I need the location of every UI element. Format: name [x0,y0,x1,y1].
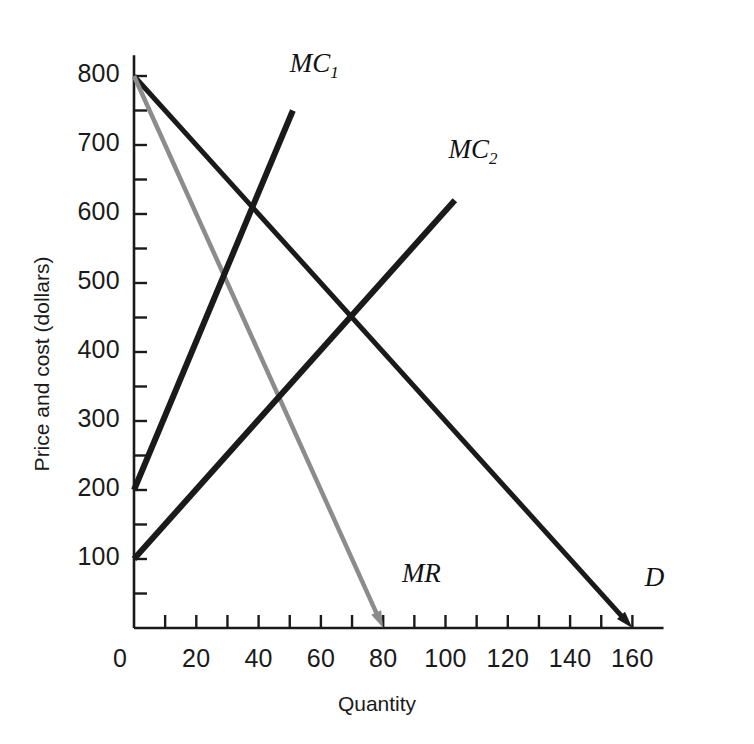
y-tick-label: 600 [77,197,120,226]
curve-label-text: MC [449,134,490,164]
economics-chart-figure: 100200300400500600700800 020406080100120… [0,0,754,744]
axis-lines [134,55,664,628]
curve-label-text: D [645,562,665,592]
y-tick-label: 700 [77,128,120,157]
chart-plot-area [0,0,754,744]
y-tick-label: 200 [77,473,120,502]
y-tick-label: 500 [77,266,120,295]
curve-label-subscript: 2 [489,149,498,168]
x-axis-title: Quantity [0,692,754,716]
y-tick-label: 800 [77,59,120,88]
curve-D [134,76,624,619]
x-tick-label: 160 [582,644,682,673]
curve-label-text: MR [402,558,441,588]
curve-label-D: D [645,562,665,593]
curve-label-MC1: MC1 [290,48,339,83]
curve-label-MR: MR [402,558,441,589]
curve-label-subscript: 1 [330,63,339,82]
arrowhead-MR [371,610,383,628]
y-axis-title: Price and cost (dollars) [30,214,54,514]
curve-label-MC2: MC2 [449,134,498,169]
y-tick-label: 100 [77,542,120,571]
y-tick-label: 300 [77,404,120,433]
curve-lines [134,76,632,628]
curve-label-text: MC [290,48,331,78]
y-tick-label: 400 [77,335,120,364]
curve-MR [134,76,378,617]
